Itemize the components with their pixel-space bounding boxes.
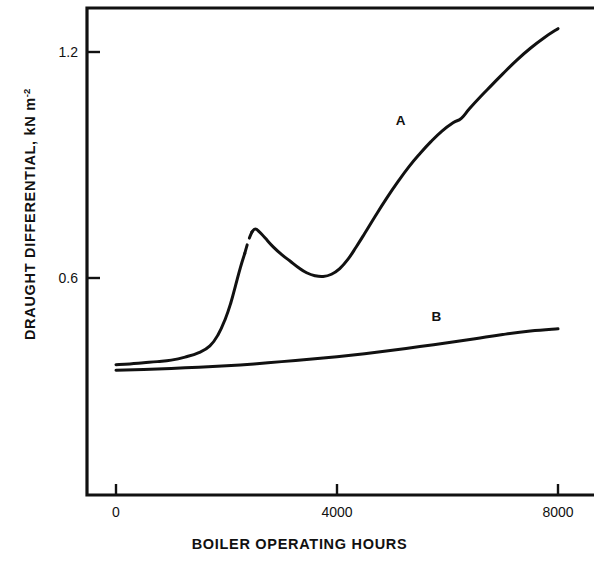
y-axis-title-text: DRAUGHT DIFFERENTIAL, kN m [22, 97, 38, 340]
y-axis-title: DRAUGHT DIFFERENTIAL, kN m-2 [21, 89, 39, 340]
y-tick-label: 1.2 [26, 44, 78, 60]
curve-label-b: B [432, 308, 442, 323]
plot-frame [87, 8, 594, 495]
plot-border [87, 8, 594, 495]
axis-ticks [87, 52, 558, 495]
y-axis-title-exponent: -2 [21, 89, 32, 97]
data-curves [116, 29, 558, 371]
x-tick-label: 0 [112, 504, 120, 520]
x-tick-label: 8000 [542, 504, 573, 520]
curve-a [116, 254, 245, 365]
chart-figure: DRAUGHT DIFFERENTIAL, kN m-2 BOILER OPER… [0, 0, 599, 566]
y-tick-label: 0.6 [26, 270, 78, 286]
x-axis-title: BOILER OPERATING HOURS [0, 536, 599, 552]
y-axis-title-wrapper: DRAUGHT DIFFERENTIAL, kN m-2 [21, 34, 40, 394]
plot-canvas [0, 0, 599, 566]
curve-label-a: A [396, 112, 406, 127]
curve-a-continued [252, 29, 558, 277]
curve-a-dashed [245, 232, 252, 253]
curve-b [116, 329, 558, 370]
x-tick-label: 4000 [321, 504, 352, 520]
